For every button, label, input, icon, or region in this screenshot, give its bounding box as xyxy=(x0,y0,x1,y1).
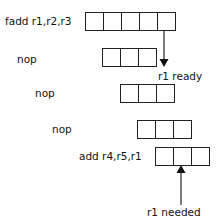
annotation-r1-needed: r1 needed xyxy=(147,206,201,218)
arrow-up-icon xyxy=(177,165,186,205)
arrow-down-icon xyxy=(160,31,169,67)
annotation-r1-ready: r1 ready xyxy=(158,70,202,82)
arrows-layer xyxy=(0,0,220,222)
